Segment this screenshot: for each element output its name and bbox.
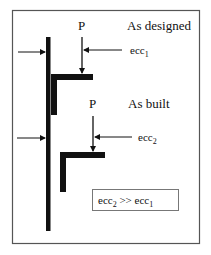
column	[46, 37, 51, 231]
as-designed-label: As designed	[127, 18, 191, 33]
bracket-as-designed	[51, 74, 93, 115]
eccentricity-diagram: P ecc1 As designed P ecc2 As built ecc2 …	[0, 0, 211, 255]
ecc1-label: ecc1	[130, 44, 149, 59]
as-built-label: As built	[128, 96, 170, 111]
load-label-built: P	[89, 96, 96, 111]
bracket-as-built	[60, 152, 105, 192]
ecc2-label: ecc2	[138, 131, 157, 146]
load-label-designed: P	[78, 18, 85, 33]
